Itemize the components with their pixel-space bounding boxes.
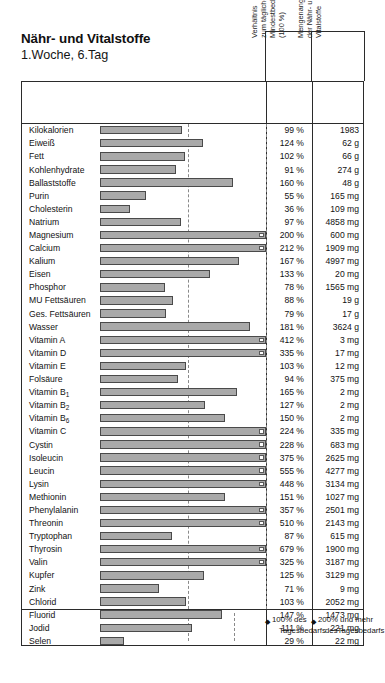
nutrient-label: Vitamin D [29,349,101,358]
bar-overflow [100,480,266,488]
bar-track [100,478,266,491]
bar [100,257,239,265]
amount-value: 3 mg [312,336,364,345]
percent-value: 375 % [266,454,310,463]
header-top-rule [265,31,364,32]
bar-track [100,347,266,360]
table-row: Kohlenhydrate91 %274 g [22,163,363,176]
amount-value: 2625 mg [312,454,364,463]
amount-value: 3187 mg [312,558,364,567]
bar [100,571,204,579]
nutrient-label: Cholesterin [29,205,101,214]
bar-track [100,556,266,569]
table-row: Lysin448 %3134 mg [22,478,363,491]
amount-value: 2052 mg [312,598,364,607]
percent-value: 124 % [266,139,310,148]
bar-overflow [100,466,266,474]
table-row: Phenylalanin357 %2501 mg [22,504,363,517]
percent-value: 78 % [266,283,310,292]
percent-value: 103 % [266,362,310,371]
legend-over-line1: 200% und mehr [318,615,380,626]
overflow-marker-icon [259,560,264,564]
nutrient-label: Zink [29,585,101,594]
amount-value: 1909 mg [312,244,364,253]
report-title-block: Nähr- und Vitalstoffe 1.Woche, 6.Tag [21,31,261,64]
nutrient-label: Phenylalanin [29,506,101,515]
legend-over-line2: desTagesbedarfs [318,626,380,637]
bar-track [100,504,266,517]
bar-track [100,124,266,137]
bar [100,178,233,186]
table-row: Magnesium200 %600 mg [22,229,363,242]
table-row: Thyrosin679 %1900 mg [22,543,363,556]
amount-value: 20 mg [312,270,364,279]
nutrient-label: Lysin [29,480,101,489]
bar [100,375,178,383]
nutrient-label: Vitamin E [29,362,101,371]
percent-value: 679 % [266,545,310,554]
nutrient-label: MU Fettsäuren [29,296,101,305]
nutrient-label: Cystin [29,441,101,450]
nutrient-label: Kupfer [29,571,101,580]
bar [100,322,250,330]
table-row: Valin325 %3187 mg [22,556,363,569]
bar-track [100,294,266,307]
amount-value: 3624 g [312,323,364,332]
bar-track [100,569,266,582]
bar-track [100,530,266,543]
nutrient-label: Wasser [29,323,101,332]
table-row: Natrium97 %4858 mg [22,216,363,229]
overflow-marker-icon [259,482,264,486]
page-subtitle: 1.Woche, 6.Tag [21,48,261,63]
percent-value: 99 % [266,126,310,135]
nutrient-label: Kohlenhydrate [29,166,101,175]
bar [100,401,205,409]
table-row: Phosphor78 %1565 mg [22,281,363,294]
bar [100,165,176,173]
bar-overflow [100,545,266,553]
amount-value: 2 mg [312,414,364,423]
nutrient-label: Purin [29,192,101,201]
amount-value: 17 g [312,310,364,319]
amount-value: 1900 mg [312,545,364,554]
percent-value: 71 % [266,585,310,594]
amount-value: 3129 mg [312,571,364,580]
table-row: Ballaststoffe160 %48 g [22,176,363,189]
bar-track [100,464,266,477]
bar [100,270,210,278]
bar-track [100,451,266,464]
nutrient-label: Vitamin A [29,336,101,345]
bar [100,296,173,304]
bar-overflow [100,506,266,514]
amount-value: 109 mg [312,205,364,214]
percent-value: 165 % [266,388,310,397]
bar-track [100,150,266,163]
bar [100,205,130,213]
table-row: Kupfer125 %3129 mg [22,569,363,582]
bar-track [100,373,266,386]
percent-value: 97 % [266,218,310,227]
table-row: Zink71 %9 mg [22,582,363,595]
bar-overflow [100,349,266,357]
bar [100,584,159,592]
nutrient-label-text: Vitamin B [29,387,66,397]
nutrient-label: Ges. Fettsäuren [29,310,101,319]
nutrient-label: Vitamin B1 [29,388,101,397]
nutrient-label-subscript: 2 [66,404,70,411]
percent-value: 103 % [266,598,310,607]
overflow-marker-icon [259,442,264,446]
bar [100,309,166,317]
bar [100,191,146,199]
bar [100,362,186,370]
amount-value: 615 mg [312,532,364,541]
percent-value: 212 % [266,244,310,253]
amount-value: 2 mg [312,401,364,410]
percent-value: 555 % [266,467,310,476]
table-row: Kilokalorien99 %1983 [22,124,363,137]
percent-value: 335 % [266,349,310,358]
page-title: Nähr- und Vitalstoffe [21,31,261,46]
amount-value: 48 g [312,179,364,188]
bar-track [100,334,266,347]
table-row: Fett102 %66 g [22,150,363,163]
nutrient-label: Eisen [29,270,101,279]
